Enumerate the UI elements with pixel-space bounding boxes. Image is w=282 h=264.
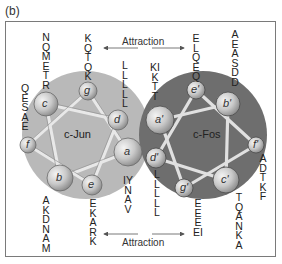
seq-b-prime: AEASDD [229, 30, 241, 88]
node-label-f: f [26, 138, 29, 150]
seq-g: KQTQK [82, 34, 94, 82]
node-label-a: a [124, 145, 130, 157]
seq-a: IYNAV [122, 176, 134, 214]
seq-c: NQMETR [40, 33, 52, 91]
node-label-a-prime: a' [155, 113, 163, 125]
seq-g-prime: EEEEI [192, 199, 204, 237]
node-label-g: g [84, 84, 90, 96]
seq-a-prime: KIKTT [149, 63, 161, 101]
attraction-top-label: Attraction [122, 36, 164, 47]
c-jun-label: c-Jun [64, 128, 91, 140]
node-label-c-prime: c' [221, 173, 229, 185]
node-label-b-prime: b' [223, 97, 231, 109]
node-label-f-prime: f' [253, 138, 258, 150]
node-label-d: d [114, 113, 120, 125]
seq-f: QESAE [19, 84, 31, 132]
node-label-e-prime: e' [191, 83, 199, 95]
c-fos-label: c-Fos [193, 128, 221, 140]
node-label-d-prime: d' [150, 151, 158, 163]
seq-d: LLLLL [120, 61, 130, 109]
seq-e-prime: ELQEQ [190, 34, 202, 82]
seq-c-prime: TQANKA [233, 193, 245, 251]
node-label-e: e [88, 178, 94, 190]
seq-b: AKDNAM [40, 196, 52, 254]
seq-f-prime: ADTKF [257, 154, 269, 202]
attraction-bottom-label: Attraction [122, 237, 164, 248]
node-label-g-prime: g' [180, 181, 188, 193]
node-label-b: b [56, 171, 62, 183]
seq-e: EKARK [87, 199, 99, 247]
node-label-c: c [42, 97, 48, 109]
seq-d-prime: LLLLL [152, 170, 162, 218]
